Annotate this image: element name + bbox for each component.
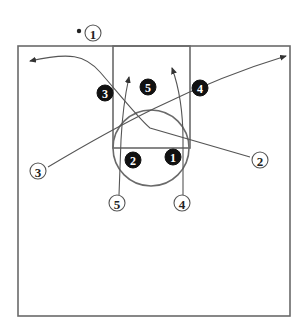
play-diagram: 1 3 2 5 4 3 5 4 2 1 — [0, 0, 307, 335]
offense-player-label: 5 — [114, 197, 121, 212]
defense-player-label: 5 — [145, 81, 151, 95]
defense-player-label: 1 — [170, 151, 176, 165]
cut-path-player-3 — [48, 56, 286, 167]
offense-player-4[interactable]: 4 — [174, 195, 190, 212]
defense-player-5[interactable]: 5 — [140, 79, 156, 95]
offense-player-label: 2 — [257, 154, 264, 169]
defense-player-1[interactable]: 1 — [165, 149, 181, 165]
offense-player-2[interactable]: 2 — [252, 152, 268, 169]
offense-player-3[interactable]: 3 — [30, 163, 46, 180]
cut-path-player-2 — [30, 56, 250, 157]
defense-player-3[interactable]: 3 — [97, 85, 113, 101]
offense-player-label: 4 — [179, 197, 186, 212]
offense-player-label: 1 — [90, 27, 97, 42]
ball-icon — [77, 29, 81, 33]
defense-player-label: 3 — [102, 87, 108, 101]
offense-player-label: 3 — [35, 165, 42, 180]
defense-player-2[interactable]: 2 — [125, 152, 141, 168]
offense-player-1[interactable]: 1 — [85, 25, 101, 42]
defense-player-4[interactable]: 4 — [192, 80, 208, 96]
defense-player-label: 4 — [197, 82, 203, 96]
defense-player-label: 2 — [130, 154, 136, 168]
offense-player-5[interactable]: 5 — [109, 195, 125, 212]
